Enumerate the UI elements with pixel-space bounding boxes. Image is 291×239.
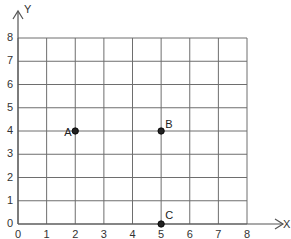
y-tick-label: 2: [7, 171, 13, 183]
y-axis-label: Y: [24, 3, 32, 15]
y-tick-label: 5: [7, 101, 13, 113]
point-marker-icon: [158, 128, 164, 134]
x-tick-label: 4: [129, 228, 135, 239]
x-tick-label: 6: [187, 228, 193, 239]
x-tick-labels: 012345678: [15, 228, 250, 239]
x-tick-label: 1: [44, 228, 50, 239]
y-tick-label: 7: [7, 54, 13, 66]
coordinate-grid: Y X 012345678 012345678 ABC: [0, 0, 291, 239]
point-marker-icon: [158, 221, 164, 227]
grid-lines: [18, 38, 247, 224]
data-points: ABC: [64, 118, 173, 227]
x-tick-label: 8: [244, 228, 250, 239]
y-tick-label: 0: [7, 217, 13, 229]
x-tick-label: 3: [101, 228, 107, 239]
x-tick-label: 5: [158, 228, 164, 239]
point-a: A: [64, 126, 78, 138]
x-tick-label: 2: [72, 228, 78, 239]
y-tick-label: 1: [7, 194, 13, 206]
y-tick-label: 8: [7, 31, 13, 43]
y-tick-label: 6: [7, 78, 13, 90]
point-b: B: [158, 118, 173, 134]
y-tick-label: 3: [7, 147, 13, 159]
point-label: C: [165, 209, 173, 221]
axes: Y X: [13, 3, 291, 230]
y-tick-labels: 012345678: [7, 31, 13, 229]
y-tick-label: 4: [7, 124, 13, 136]
x-axis-label: X: [283, 218, 291, 230]
point-label: B: [165, 118, 172, 130]
point-marker-icon: [72, 128, 78, 134]
x-tick-label: 0: [15, 228, 21, 239]
point-label: A: [64, 126, 72, 138]
x-tick-label: 7: [215, 228, 221, 239]
